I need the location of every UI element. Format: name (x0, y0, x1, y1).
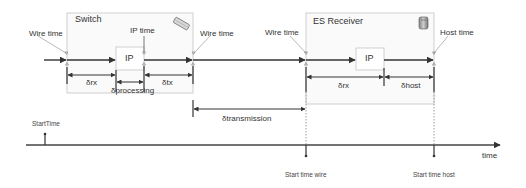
delta-tx-label: δtx (162, 79, 173, 87)
switch-ip-label: IP (125, 54, 134, 63)
wire-time-in-label: Wire time (29, 30, 63, 38)
timing-diagram: Switch ES Receiver IP IP Wire time IP ti… (0, 0, 526, 188)
receiver-delta-rx-label: δrx (338, 82, 349, 90)
ip-time-label: IP time (130, 27, 155, 35)
time-axis-label: time (482, 152, 497, 160)
delta-processing-label: δprocessing (111, 87, 154, 95)
receiver-title: ES Receiver (313, 17, 363, 26)
delta-host-label: δhost (401, 82, 421, 90)
receiver-wire-time-label: Wire time (265, 29, 299, 37)
wire-time-out-label: Wire time (200, 30, 234, 38)
switch-title: Switch (75, 15, 102, 24)
start-time-wire-label: Start time wire (285, 172, 327, 179)
delta-transmission-label: δtransmission (222, 115, 271, 123)
start-time-label: StartTime (32, 121, 60, 128)
receiver-ip-label: IP (365, 54, 374, 63)
start-time-host-label: Start time host (413, 172, 455, 179)
switch-delta-rx-label: δrx (86, 79, 97, 87)
server-icon (419, 17, 428, 29)
host-time-label: Host time (440, 29, 474, 37)
